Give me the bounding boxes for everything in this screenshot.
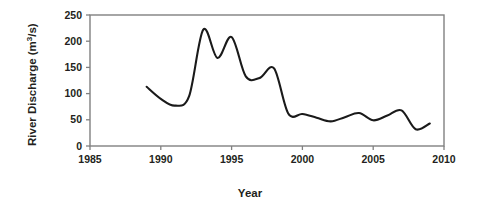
y-axis-tick-label: 50 — [70, 113, 82, 125]
x-axis-tick-label: 2000 — [291, 153, 315, 165]
x-axis-tick-label: 2005 — [362, 153, 386, 165]
y-axis-tick-label: 250 — [64, 9, 82, 21]
x-axis-tick-label: 1985 — [78, 153, 102, 165]
x-axis-tick-label: 1990 — [149, 153, 173, 165]
plot-frame — [90, 15, 444, 146]
x-axis-tick-label: 1995 — [220, 153, 244, 165]
data-series-line — [147, 29, 430, 130]
y-axis-title: River Discharge (m3/s) — [25, 23, 38, 146]
figure-container: 050100150200250 198519901995200020052010… — [0, 0, 481, 212]
river-discharge-line-chart: 050100150200250 198519901995200020052010… — [0, 0, 481, 212]
x-axis-tick-labels: 198519901995200020052010 — [78, 153, 456, 165]
y-axis-tick-label: 100 — [64, 87, 82, 99]
y-axis-tick-label: 150 — [64, 61, 82, 73]
y-axis-tick-labels: 050100150200250 — [64, 9, 82, 152]
x-axis-tick-label: 2010 — [432, 153, 456, 165]
y-axis-tick-label: 0 — [76, 140, 82, 152]
y-axis-tick-label: 200 — [64, 35, 82, 47]
x-axis-title: Year — [238, 187, 263, 199]
